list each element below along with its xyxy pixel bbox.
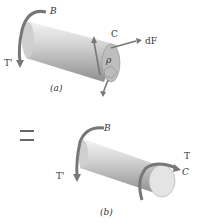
label-b-b: B [104, 124, 111, 133]
equals-sign [20, 130, 34, 141]
label-t-b: T [184, 152, 190, 161]
label-c-b: C [182, 168, 189, 177]
caption-b: (b) [100, 208, 113, 217]
label-rho: ρ [106, 56, 111, 65]
shaft-a [22, 22, 120, 82]
caption-a: (a) [50, 84, 62, 93]
torsion-diagram [0, 0, 197, 224]
label-b-a: B [50, 7, 57, 16]
shaft-b [78, 140, 175, 197]
label-tprime-b: T' [56, 172, 64, 181]
label-df: dF [145, 37, 157, 46]
label-tprime-a: T' [4, 59, 12, 68]
label-c-a: C [111, 30, 118, 39]
